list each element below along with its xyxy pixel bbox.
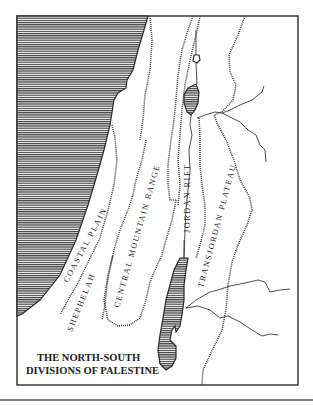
map-title-line-1: THE NORTH-SOUTH xyxy=(37,352,140,363)
lake-huleh xyxy=(193,55,200,63)
label-jordan-rift: JORDAN RIFT xyxy=(183,163,192,233)
map-title-line-2: DIVISIONS OF PALESTINE xyxy=(26,365,159,376)
palestine-divisions-map: COASTAL PLAIN SHEPHELAH CENTRAL MOUNTAIN… xyxy=(0,0,313,406)
